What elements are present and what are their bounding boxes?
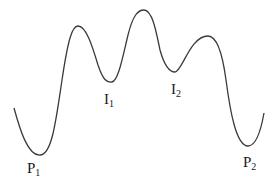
label-i2: I2 <box>171 82 181 99</box>
label-p2: P2 <box>243 155 256 172</box>
label-i1: I1 <box>104 92 114 109</box>
label-p1: P1 <box>27 161 40 178</box>
energy-curve <box>0 0 275 183</box>
curve-path <box>14 10 264 155</box>
